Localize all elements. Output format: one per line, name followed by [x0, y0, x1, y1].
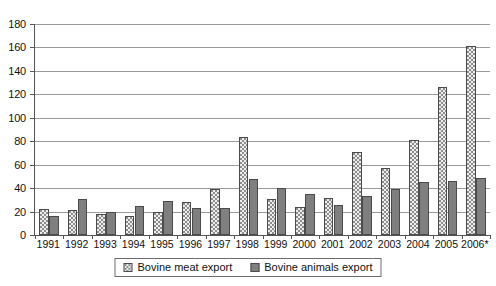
bar-animals-export[interactable]	[277, 188, 287, 235]
bar-meat-export[interactable]	[267, 199, 277, 235]
bar-meat-export[interactable]	[466, 46, 476, 235]
bar-group	[39, 24, 59, 235]
x-tick-label: 2005	[435, 238, 458, 250]
bar-meat-export[interactable]	[68, 210, 78, 235]
bars-layer	[35, 24, 490, 235]
bar-animals-export[interactable]	[220, 208, 230, 235]
y-tick-label: 120	[8, 89, 26, 100]
bar-meat-export[interactable]	[239, 137, 249, 235]
x-tick-label: 1992	[65, 238, 88, 250]
bar-animals-export[interactable]	[334, 205, 344, 235]
y-tick-label: 140	[8, 65, 26, 76]
x-tick-label: 1994	[122, 238, 145, 250]
x-axis: 1991199219931994199519961997199819992000…	[34, 238, 489, 254]
bar-animals-export[interactable]	[78, 199, 88, 235]
legend-label-meat: Bovine meat export	[137, 261, 232, 273]
chart-legend: Bovine meat export Bovine animals export	[114, 258, 381, 277]
y-tick-label: 160	[8, 42, 26, 53]
bar-group	[125, 24, 145, 235]
x-tick-label: 1997	[207, 238, 230, 250]
bar-animals-export[interactable]	[49, 216, 59, 235]
bar-group	[352, 24, 372, 235]
bar-group	[466, 24, 486, 235]
bar-animals-export[interactable]	[163, 201, 173, 235]
bar-meat-export[interactable]	[438, 87, 448, 235]
y-tick-label: 20	[14, 206, 26, 217]
bar-meat-export[interactable]	[324, 198, 334, 236]
bar-meat-export[interactable]	[295, 207, 305, 235]
bar-group	[295, 24, 315, 235]
plot-wrapper: 020406080100120140160180 199119921993199…	[0, 0, 496, 250]
x-tick-label: 1999	[264, 238, 287, 250]
y-axis: 020406080100120140160180	[0, 0, 30, 250]
bar-animals-export[interactable]	[362, 196, 372, 235]
x-tick-mark	[490, 235, 491, 239]
y-tick-label: 100	[8, 112, 26, 123]
bar-meat-export[interactable]	[352, 152, 362, 235]
bar-meat-export[interactable]	[409, 140, 419, 235]
plot-area	[34, 24, 490, 236]
bar-group	[153, 24, 173, 235]
bar-group	[324, 24, 344, 235]
bar-group	[381, 24, 401, 235]
bar-group	[239, 24, 259, 235]
bar-animals-export[interactable]	[106, 212, 116, 235]
legend-entry-animals[interactable]: Bovine animals export	[250, 261, 372, 273]
bar-animals-export[interactable]	[419, 182, 429, 235]
bar-animals-export[interactable]	[391, 189, 401, 235]
x-tick-label: 2006*	[461, 238, 488, 250]
x-tick-label: 2003	[378, 238, 401, 250]
bar-group	[267, 24, 287, 235]
bar-group	[210, 24, 230, 235]
x-tick-label: 1993	[93, 238, 116, 250]
x-tick-label: 2002	[349, 238, 372, 250]
bar-meat-export[interactable]	[125, 216, 135, 235]
bar-animals-export[interactable]	[448, 181, 458, 235]
y-tick-label: 80	[14, 136, 26, 147]
bar-animals-export[interactable]	[476, 178, 486, 235]
y-tick-label: 0	[20, 230, 26, 241]
x-tick-label: 2000	[292, 238, 315, 250]
bar-animals-export[interactable]	[192, 208, 202, 235]
bar-animals-export[interactable]	[249, 179, 259, 235]
legend-swatch-animals-icon	[250, 263, 259, 272]
bar-animals-export[interactable]	[305, 194, 315, 235]
y-tick-label: 60	[14, 159, 26, 170]
legend-swatch-meat-icon	[123, 263, 132, 272]
bar-group	[438, 24, 458, 235]
bar-group	[96, 24, 116, 235]
bar-meat-export[interactable]	[210, 189, 220, 235]
x-tick-label: 1996	[179, 238, 202, 250]
x-tick-label: 1991	[37, 238, 60, 250]
x-tick-label: 1998	[236, 238, 259, 250]
bar-meat-export[interactable]	[96, 214, 106, 235]
bar-group	[182, 24, 202, 235]
bar-meat-export[interactable]	[381, 168, 391, 235]
y-tick-label: 40	[14, 183, 26, 194]
legend-label-animals: Bovine animals export	[264, 261, 372, 273]
bar-group	[409, 24, 429, 235]
y-tick-label: 180	[8, 19, 26, 30]
x-tick-label: 2001	[321, 238, 344, 250]
bar-meat-export[interactable]	[182, 202, 192, 235]
bar-group	[68, 24, 88, 235]
bar-chart: 020406080100120140160180 199119921993199…	[0, 0, 496, 286]
x-tick-label: 2004	[406, 238, 429, 250]
bar-animals-export[interactable]	[135, 206, 145, 235]
bar-meat-export[interactable]	[39, 209, 49, 235]
x-tick-label: 1995	[150, 238, 173, 250]
legend-entry-meat[interactable]: Bovine meat export	[123, 261, 232, 273]
bar-meat-export[interactable]	[153, 212, 163, 235]
